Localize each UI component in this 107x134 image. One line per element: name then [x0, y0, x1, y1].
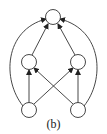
node-top — [46, 10, 61, 25]
graph-diagram — [0, 0, 107, 134]
diagram-caption: (b) — [0, 117, 107, 132]
edge-midleft-top — [32, 24, 48, 55]
node-mid-left — [22, 55, 37, 70]
node-mid-right — [71, 55, 86, 70]
edge-midright-top — [58, 24, 75, 55]
node-bottom-left — [22, 103, 37, 118]
node-bottom-right — [71, 103, 86, 118]
